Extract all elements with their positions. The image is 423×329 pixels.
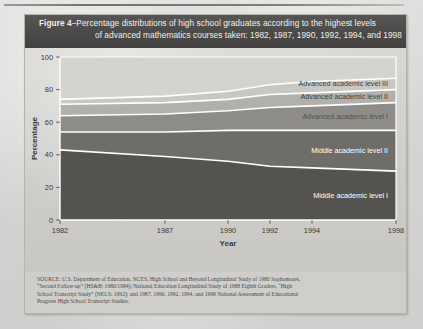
source-line-1: SOURCE: U.S. Department of Education, NC… [37,276,394,283]
figure-container: Figure 4–Percentage distributions of hig… [24,14,407,314]
chart-panel: 020406080100198219871990199219941998Year… [25,48,406,272]
source-line-2: “Second Follow-up” (HS&B: 1980/1984); Na… [37,283,394,290]
figure-title-line-2: of advanced mathematics courses taken: 1… [35,30,396,42]
x-tick-label: 1987 [157,226,173,235]
y-tick-label: 60 [45,118,53,127]
x-tick-label: 1994 [304,226,320,235]
source-line-4: Progress High School Transcript Studies. [37,298,394,305]
y-tick-label: 80 [45,85,53,94]
figure-title-line-1: Figure 4–Percentage distributions of hig… [35,18,396,30]
y-tick-label: 20 [45,183,53,192]
figure-number-label: Figure 4 [39,18,72,28]
x-tick-label: 1998 [388,226,404,235]
stacked-area-chart: 020406080100198219871990199219941998Year… [25,48,406,272]
y-tick-label: 0 [49,216,53,225]
figure-title-text-1: –Percentage distributions of high school… [72,18,376,28]
y-tick-label: 40 [45,150,53,159]
top-rule-divider [4,4,404,6]
band-label: Middle academic level II [311,146,388,155]
band-label: Advanced academic level II [301,92,389,101]
band-label: Middle academic level I [313,191,388,200]
y-axis-title: Percentage [30,116,39,160]
x-tick-label: 1990 [220,226,236,235]
x-tick-label: 1982 [52,226,68,235]
y-tick-label: 100 [41,53,53,62]
band-label: Advanced academic level III [299,79,389,88]
x-axis-title: Year [220,239,237,248]
band-label: Advanced academic level I [303,112,389,121]
source-note: SOURCE: U.S. Department of Education, NC… [25,272,406,313]
plot-area-wrapper: 020406080100198219871990199219941998Year… [25,48,406,272]
x-tick-label: 1992 [262,226,278,235]
figure-title-bar: Figure 4–Percentage distributions of hig… [25,15,406,48]
source-line-3: School Transcript Study” (NELS: 1992); a… [37,291,394,298]
